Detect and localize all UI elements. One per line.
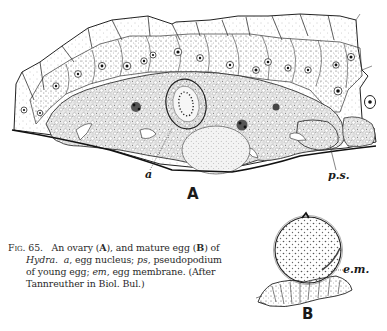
figure-number: Fig. 65. — [8, 242, 43, 253]
mature-egg — [275, 217, 341, 283]
caption-text: , egg nucleus; — [69, 254, 137, 265]
panel-label-a: A — [187, 187, 199, 202]
annotation-pseudopodium: p.s. — [328, 170, 350, 181]
annotation-egg-membrane: e.m. — [343, 264, 369, 275]
caption-text: ), and mature egg ( — [107, 242, 197, 253]
caption-bold-b: B — [196, 242, 204, 253]
caption-italic-em: em — [92, 266, 106, 277]
annotation-egg-nucleus: a — [145, 169, 152, 180]
caption-italic-hydra: Hydra. — [26, 254, 58, 265]
caption-line-2: Hydra. a, egg nucleus; ps, pseudopodium — [8, 254, 240, 266]
caption-line-3: of young egg; em, egg membrane. (After — [8, 266, 240, 278]
caption-text: ) of — [204, 242, 219, 253]
caption-text: , egg membrane. (After — [107, 266, 216, 277]
isolated-cell — [365, 96, 376, 109]
figure-caption: Fig. 65. An ovary (A), and mature egg (B… — [8, 242, 240, 290]
caption-line-4: Tannreuther in Biol. Bul.) — [8, 278, 240, 290]
caption-text: An ovary ( — [52, 242, 100, 253]
caption-text: , pseudopodium — [148, 254, 222, 265]
caption-line-1: Fig. 65. An ovary (A), and mature egg (B… — [8, 242, 240, 254]
panel-a-ovary — [12, 14, 376, 174]
yolk-mass — [182, 126, 250, 174]
panel-b-mature-egg — [256, 213, 352, 307]
caption-text: of young egg; — [26, 266, 92, 277]
caption-bold-a: A — [99, 242, 106, 253]
caption-text: Tannreuther in Biol. Bul.) — [26, 278, 145, 289]
panel-label-b: B — [302, 307, 313, 322]
caption-italic-ps: ps — [137, 254, 148, 265]
